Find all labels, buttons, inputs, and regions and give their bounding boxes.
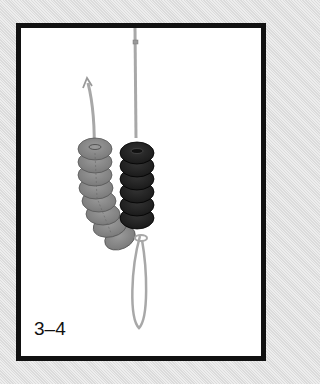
step-label: 3–4 <box>34 318 66 340</box>
thread-wrap <box>135 235 147 241</box>
bead-hole <box>131 149 143 154</box>
diagram-frame: 3–4 <box>16 23 266 361</box>
beading-illustration <box>21 28 261 356</box>
dark-bead-column <box>120 142 154 229</box>
thread-knot-icon <box>133 40 138 44</box>
